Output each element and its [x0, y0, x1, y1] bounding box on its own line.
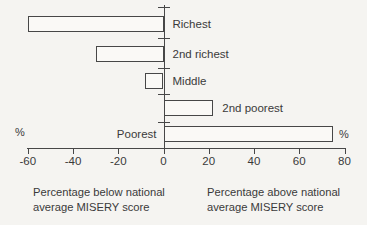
- percent-sign-right: %: [339, 128, 349, 140]
- category-separator-tick-3: [158, 94, 170, 95]
- x-tick-label--40: -40: [65, 155, 82, 167]
- category-separator-tick-1: [158, 38, 170, 39]
- x-tick--20: [118, 148, 119, 154]
- x-tick-label--20: -20: [110, 155, 127, 167]
- bar-poorest: [164, 126, 334, 142]
- x-axis-line: [27, 148, 346, 149]
- category-label-poorest: Poorest: [117, 128, 157, 140]
- caption-below-average: Percentage below national average MISERY…: [33, 185, 165, 215]
- x-tick-label-20: 20: [202, 155, 215, 167]
- bar-middle: [145, 73, 163, 89]
- x-tick--60: [28, 148, 29, 154]
- x-tick-20: [209, 148, 210, 154]
- category-label-richest: Richest: [173, 18, 211, 30]
- caption-left-line1: Percentage below national: [33, 185, 165, 200]
- x-tick-80: [345, 148, 346, 154]
- x-tick-60: [299, 148, 300, 154]
- category-separator-tick-4: [158, 122, 170, 123]
- percent-sign-left: %: [15, 126, 25, 138]
- caption-right-line1: Percentage above national: [207, 185, 340, 200]
- category-separator-tick-2: [158, 68, 170, 69]
- x-tick-0: [164, 148, 165, 154]
- x-tick-label-40: 40: [248, 155, 261, 167]
- category-separator-tick-0: [158, 7, 170, 8]
- bar-2nd-poorest: [164, 100, 214, 116]
- caption-right-line2: average MISERY score: [207, 200, 340, 215]
- bar-2nd-richest: [96, 46, 164, 62]
- category-label-2nd-poorest: 2nd poorest: [222, 102, 283, 114]
- caption-left-line2: average MISERY score: [33, 200, 165, 215]
- x-tick-label--60: -60: [19, 155, 36, 167]
- misery-score-bar-chart: -60-40-20020406080Richest2nd richestMidd…: [0, 0, 367, 225]
- x-tick-label-80: 80: [338, 155, 351, 167]
- category-label-2nd-richest: 2nd richest: [173, 48, 229, 60]
- x-tick-label-0: 0: [160, 155, 166, 167]
- x-tick-40: [254, 148, 255, 154]
- x-tick--40: [73, 148, 74, 154]
- x-tick-label-60: 60: [293, 155, 306, 167]
- category-label-middle: Middle: [173, 75, 207, 87]
- caption-above-average: Percentage above national average MISERY…: [207, 185, 340, 215]
- bar-richest: [28, 16, 164, 32]
